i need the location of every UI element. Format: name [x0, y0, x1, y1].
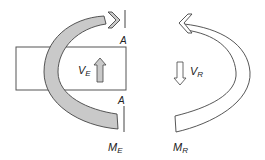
section-label-bottom: A [117, 95, 125, 106]
moment-label-right: MR [173, 141, 188, 155]
beam-segment-left [16, 47, 126, 90]
section-label-top: A [119, 35, 127, 46]
free-body-diagram: A A VE ME VR MR [0, 0, 265, 160]
shear-label-left: VE [78, 64, 91, 78]
moment-arrowhead-left-icon [179, 14, 192, 33]
moment-arrowhead-right-icon [108, 12, 120, 28]
shear-arrow-up-icon [94, 58, 106, 82]
shear-arrow-down-icon [174, 62, 186, 85]
shear-label-right: VR [190, 65, 203, 79]
moment-label-left: ME [108, 141, 123, 155]
